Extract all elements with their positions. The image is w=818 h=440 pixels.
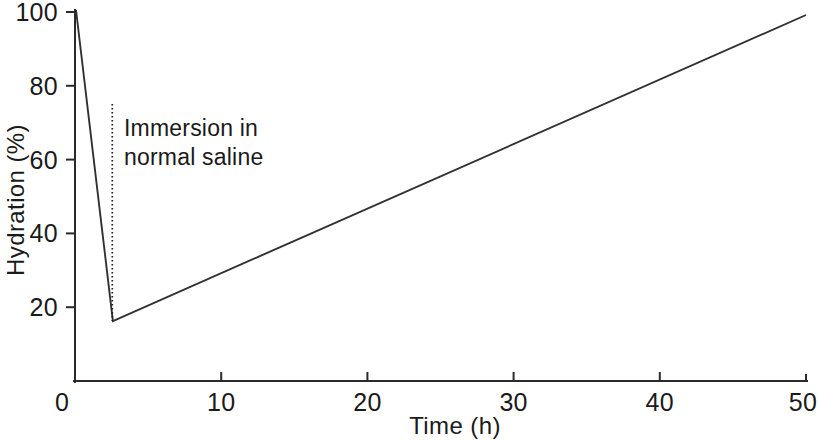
x-axis-title: Time (h) — [409, 412, 501, 439]
y-axis-title: Hydration (%) — [2, 124, 29, 276]
x-tick-label-40: 40 — [646, 388, 674, 416]
x-tick-label-20: 20 — [353, 388, 381, 416]
x-tick-label-30: 30 — [499, 388, 527, 416]
chart-figure: 100 80 60 40 20 0 10 20 30 40 50 Time (h… — [0, 0, 818, 440]
y-tick-label-80: 80 — [30, 72, 58, 100]
y-tick-label-100: 100 — [15, 0, 58, 26]
y-tick-label-60: 60 — [30, 146, 58, 174]
plot-background — [0, 0, 818, 440]
immersion-annotation-line-2: normal saline — [124, 144, 263, 170]
x-tick-label-50: 50 — [789, 388, 817, 416]
y-tick-label-40: 40 — [30, 219, 58, 247]
y-tick-label-20: 20 — [30, 293, 58, 321]
hydration-vs-time-line-chart: 100 80 60 40 20 0 10 20 30 40 50 Time (h… — [0, 0, 818, 440]
y-tick-label-0: 0 — [55, 388, 69, 416]
x-tick-label-10: 10 — [207, 388, 235, 416]
immersion-annotation-line-1: Immersion in — [124, 115, 258, 141]
